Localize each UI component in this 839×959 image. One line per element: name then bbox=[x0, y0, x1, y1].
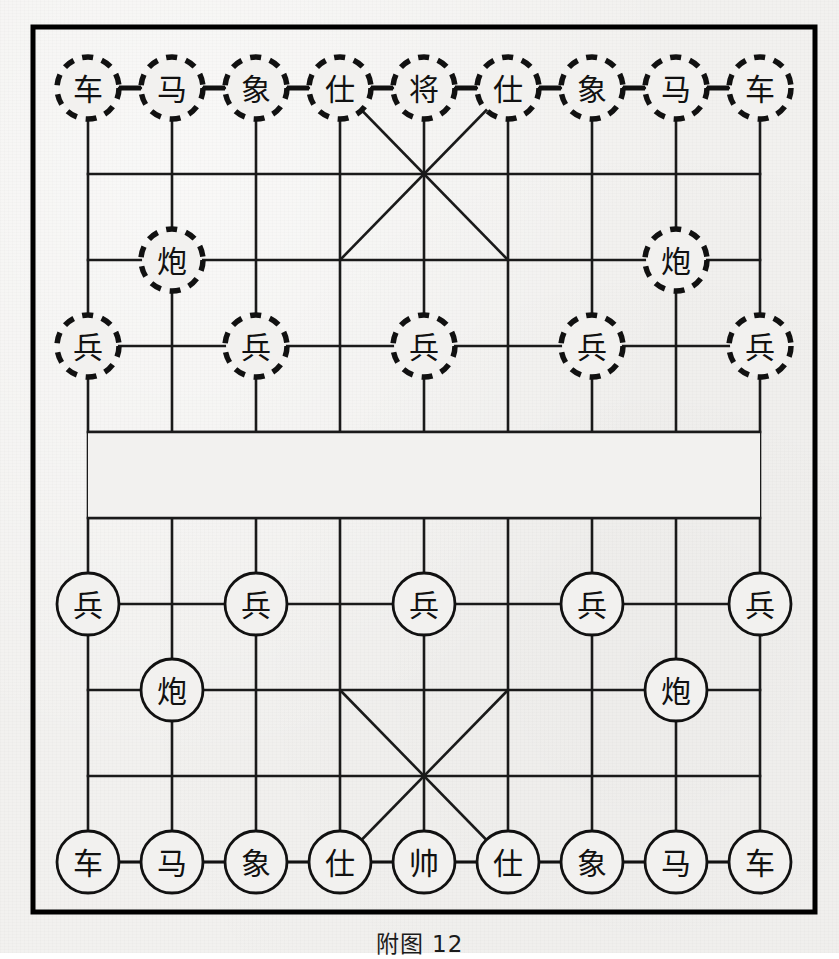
piece-black-pawn[interactable]: 兵 bbox=[393, 315, 455, 377]
piece-label: 炮 bbox=[157, 674, 187, 709]
piece-red-horse[interactable]: 马 bbox=[645, 831, 707, 893]
piece-label: 马 bbox=[157, 72, 187, 107]
piece-label: 仕 bbox=[325, 72, 355, 107]
piece-black-cannon[interactable]: 炮 bbox=[141, 229, 203, 291]
piece-red-cannon[interactable]: 炮 bbox=[141, 659, 203, 721]
piece-label: 车 bbox=[73, 846, 103, 881]
piece-label: 兵 bbox=[73, 330, 103, 365]
piece-label: 仕 bbox=[325, 846, 355, 881]
piece-red-chariot[interactable]: 车 bbox=[57, 831, 119, 893]
piece-red-horse[interactable]: 马 bbox=[141, 831, 203, 893]
piece-label: 仕 bbox=[493, 72, 523, 107]
piece-black-general[interactable]: 将 bbox=[393, 57, 455, 119]
piece-black-pawn[interactable]: 兵 bbox=[561, 315, 623, 377]
piece-red-general[interactable]: 帅 bbox=[393, 831, 455, 893]
piece-label: 兵 bbox=[577, 330, 607, 365]
piece-red-pawn[interactable]: 兵 bbox=[729, 573, 791, 635]
piece-label: 象 bbox=[241, 72, 271, 107]
piece-label: 象 bbox=[577, 72, 607, 107]
piece-label: 象 bbox=[241, 846, 271, 881]
piece-label: 将 bbox=[409, 72, 439, 107]
piece-label: 兵 bbox=[745, 588, 775, 623]
piece-label: 兵 bbox=[409, 588, 439, 623]
piece-label: 象 bbox=[577, 846, 607, 881]
piece-black-elephant[interactable]: 象 bbox=[225, 57, 287, 119]
piece-label: 炮 bbox=[661, 244, 691, 279]
piece-black-elephant[interactable]: 象 bbox=[561, 57, 623, 119]
piece-label: 兵 bbox=[241, 588, 271, 623]
piece-label: 车 bbox=[73, 72, 103, 107]
piece-label: 帅 bbox=[409, 846, 439, 881]
piece-red-chariot[interactable]: 车 bbox=[729, 831, 791, 893]
piece-black-advisor[interactable]: 仕 bbox=[309, 57, 371, 119]
piece-red-cannon[interactable]: 炮 bbox=[645, 659, 707, 721]
piece-black-pawn[interactable]: 兵 bbox=[225, 315, 287, 377]
piece-black-chariot[interactable]: 车 bbox=[57, 57, 119, 119]
piece-label: 兵 bbox=[409, 330, 439, 365]
piece-label: 马 bbox=[661, 846, 691, 881]
figure-caption: 附图 12 bbox=[0, 925, 839, 959]
piece-label: 兵 bbox=[73, 588, 103, 623]
piece-label: 车 bbox=[745, 72, 775, 107]
river-band bbox=[88, 432, 760, 518]
piece-black-pawn[interactable]: 兵 bbox=[729, 315, 791, 377]
piece-label: 兵 bbox=[241, 330, 271, 365]
piece-label: 仕 bbox=[493, 846, 523, 881]
piece-red-advisor[interactable]: 仕 bbox=[477, 831, 539, 893]
piece-label: 炮 bbox=[157, 244, 187, 279]
piece-red-pawn[interactable]: 兵 bbox=[57, 573, 119, 635]
piece-red-elephant[interactable]: 象 bbox=[561, 831, 623, 893]
piece-label: 车 bbox=[745, 846, 775, 881]
piece-black-horse[interactable]: 马 bbox=[645, 57, 707, 119]
piece-red-advisor[interactable]: 仕 bbox=[309, 831, 371, 893]
piece-label: 兵 bbox=[745, 330, 775, 365]
piece-red-pawn[interactable]: 兵 bbox=[561, 573, 623, 635]
piece-label: 炮 bbox=[661, 674, 691, 709]
piece-red-pawn[interactable]: 兵 bbox=[393, 573, 455, 635]
piece-black-pawn[interactable]: 兵 bbox=[57, 315, 119, 377]
river-layer bbox=[88, 432, 760, 518]
piece-black-horse[interactable]: 马 bbox=[141, 57, 203, 119]
piece-label: 马 bbox=[157, 846, 187, 881]
piece-black-cannon[interactable]: 炮 bbox=[645, 229, 707, 291]
piece-red-elephant[interactable]: 象 bbox=[225, 831, 287, 893]
piece-label: 马 bbox=[661, 72, 691, 107]
piece-label: 兵 bbox=[577, 588, 607, 623]
piece-red-pawn[interactable]: 兵 bbox=[225, 573, 287, 635]
piece-black-chariot[interactable]: 车 bbox=[729, 57, 791, 119]
